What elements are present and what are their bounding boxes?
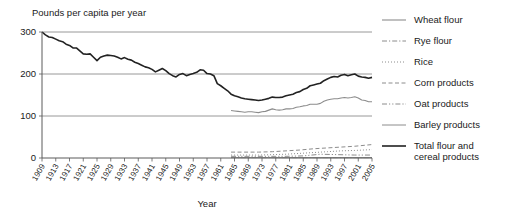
legend: Wheat flourRye flourRiceCorn productsOat…	[382, 14, 480, 162]
data-series-group	[42, 32, 372, 158]
series-line-total-flour-and-cereal-products	[42, 32, 372, 100]
y-tick-label-0: 0	[31, 152, 36, 163]
legend-item-wheat-flour: Wheat flour	[382, 14, 463, 25]
legend-item-rye-flour: Rye flour	[382, 35, 452, 46]
legend-label: Corn products	[414, 77, 474, 88]
legend-item-corn-products: Corn products	[382, 77, 474, 88]
x-axis-title: Year	[197, 198, 216, 209]
legend-label: Rice	[414, 56, 433, 67]
x-axis-tick-labels: 1909191319171921192519291933193719411945…	[30, 162, 377, 182]
x-tick-label-2005: 2005	[360, 162, 377, 182]
y-axis-title: Pounds per capita per year	[32, 7, 146, 18]
plot-area: 0100200300 19091913191719211925192919331…	[20, 26, 377, 182]
legend-item-total-flour-and: Total flour andcereal products	[382, 140, 479, 162]
legend-label-line2: cereal products	[414, 151, 479, 162]
legend-item-rice: Rice	[382, 56, 433, 67]
legend-label: Barley products	[414, 119, 480, 130]
legend-label: Wheat flour	[414, 14, 463, 25]
legend-item-oat-products: Oat products	[382, 98, 469, 109]
y-tick-label-200: 200	[20, 68, 36, 79]
legend-item-barley-products: Barley products	[382, 119, 480, 130]
chart-container: 0100200300 19091913191719211925192919331…	[0, 0, 508, 212]
series-line-corn-products	[231, 145, 372, 153]
legend-label: Oat products	[414, 98, 469, 109]
y-tick-label-300: 300	[20, 26, 36, 37]
legend-label: Rye flour	[414, 35, 452, 46]
y-tick-label-100: 100	[20, 110, 36, 121]
axis-lines	[39, 32, 372, 158]
cereal-consumption-line-chart: 0100200300 19091913191719211925192919331…	[0, 0, 508, 212]
x-axis-ticks	[42, 158, 372, 162]
legend-label: Total flour and	[414, 140, 474, 151]
y-axis-tick-labels: 0100200300	[20, 26, 36, 163]
